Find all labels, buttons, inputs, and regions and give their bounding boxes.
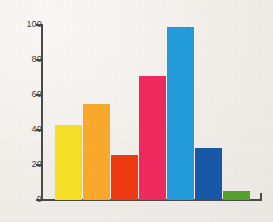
bar (83, 104, 110, 200)
bars-layer (0, 0, 273, 222)
bar (223, 191, 250, 200)
bar (167, 27, 194, 200)
bar-chart: 020406080100 (0, 0, 273, 222)
bar (111, 155, 138, 201)
bar (139, 76, 166, 200)
plot-area: 020406080100 (0, 0, 273, 222)
bar (195, 148, 222, 201)
bar (55, 125, 82, 200)
